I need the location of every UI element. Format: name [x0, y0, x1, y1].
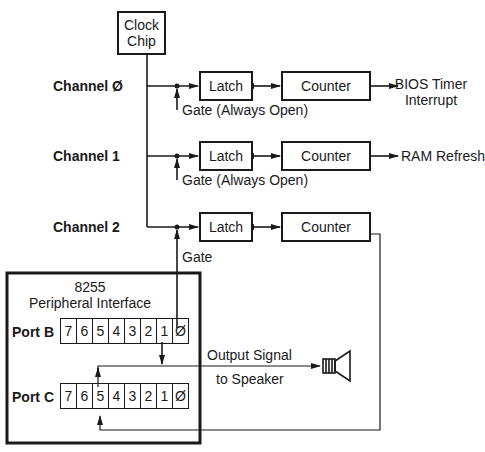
- port-b-register: 7 6 5 4 3 2 1 Ø: [60, 318, 189, 344]
- channel-0-label: Channel Ø: [53, 78, 123, 94]
- speaker-icon: [323, 351, 350, 381]
- port-b-bit-0: Ø: [173, 319, 188, 343]
- port-b-bit-6: 6: [77, 319, 93, 343]
- port-c-bit-3: 3: [125, 384, 141, 408]
- ppi-title-line2: Peripheral Interface: [10, 295, 170, 311]
- port-c-bit-4: 4: [109, 384, 125, 408]
- channel-1-output: RAM Refresh: [401, 148, 485, 164]
- clock-chip-line1: Clock: [124, 17, 159, 33]
- channel-1-label: Channel 1: [53, 148, 120, 164]
- channel-0-latch: Latch: [199, 71, 253, 101]
- channel-2-gate: Gate: [182, 249, 212, 265]
- channel-2-label: Channel 2: [53, 219, 120, 235]
- channel-2-latch: Latch: [199, 212, 253, 242]
- channel-0-output: BIOS Timer Interrupt: [386, 76, 476, 108]
- channel-0-counter: Counter: [281, 71, 371, 101]
- port-c-label: Port C: [12, 389, 54, 405]
- ppi-title-line1: 8255: [10, 279, 170, 295]
- channel-2-counter: Counter: [281, 212, 371, 242]
- channel-1-counter: Counter: [281, 141, 371, 171]
- port-c-bit-6: 6: [77, 384, 93, 408]
- port-b-bit-1: 1: [157, 319, 173, 343]
- port-c-bit-7: 7: [61, 384, 77, 408]
- port-b-bit-2: 2: [141, 319, 157, 343]
- channel-0-output-line2: Interrupt: [386, 92, 476, 108]
- speaker-label-line1: Output Signal: [207, 347, 292, 363]
- port-b-bit-3: 3: [125, 319, 141, 343]
- channel-1-latch: Latch: [199, 141, 253, 171]
- ppi-title: 8255 Peripheral Interface: [10, 279, 170, 311]
- channel-0-output-line1: BIOS Timer: [386, 76, 476, 92]
- port-b-label: Port B: [12, 324, 54, 340]
- port-c-bit-5: 5: [93, 384, 109, 408]
- port-c-register: 7 6 5 4 3 2 1 Ø: [60, 383, 189, 409]
- port-c-bit-1: 1: [157, 384, 173, 408]
- speaker-label-line2: to Speaker: [216, 371, 284, 387]
- port-b-bit-4: 4: [109, 319, 125, 343]
- port-b-bit-7: 7: [61, 319, 77, 343]
- port-c-bit-0: Ø: [173, 384, 188, 408]
- port-c-bit-2: 2: [141, 384, 157, 408]
- channel-0-gate: Gate (Always Open): [182, 102, 308, 118]
- clock-chip-box: ClockChip: [117, 11, 166, 55]
- clock-chip-line2: Chip: [124, 33, 159, 49]
- channel-1-gate: Gate (Always Open): [182, 172, 308, 188]
- port-b-bit-5: 5: [93, 319, 109, 343]
